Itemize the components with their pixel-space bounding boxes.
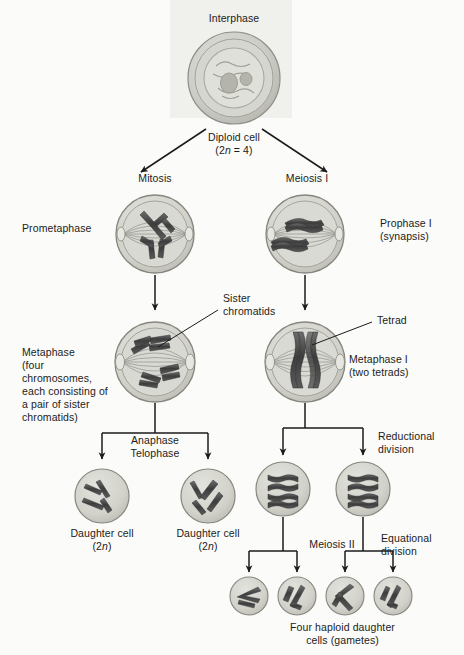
- metaphase-i-cell-graphic: [265, 322, 345, 402]
- mitosis-label: Mitosis: [120, 172, 190, 185]
- reductional-division-line1: Reductional: [378, 430, 464, 443]
- interphase-label: Interphase: [184, 12, 284, 25]
- meiosis-ii-label: Meiosis II: [299, 538, 365, 551]
- daughter-cell-2-graphic: [181, 469, 235, 523]
- reductional-division-line2: division: [378, 443, 464, 456]
- daughter-cell-2-ploidy: (2n): [168, 540, 248, 553]
- metaphase-i-label-line1: Metaphase I: [349, 353, 439, 366]
- prophase-i-label-line1: Prophase I: [380, 217, 460, 230]
- daughter-cell-2-label: Daughter cell: [168, 527, 248, 540]
- interphase-cell-graphic: [188, 32, 280, 124]
- tetrad-label: Tetrad: [377, 314, 437, 327]
- gamete-cell-2-graphic: [278, 577, 316, 615]
- sister-chromatids-label-line1: Sister: [223, 292, 293, 305]
- four-haploid-caption-line2: cells (gametes): [250, 634, 435, 647]
- meiosis-ii-split-left: [249, 517, 297, 572]
- metaphase-i-label-line2: (two tetrads): [349, 366, 449, 379]
- prometaphase-label: Prometaphase: [22, 222, 112, 235]
- meiosis-i-label: Meiosis I: [272, 172, 342, 185]
- daughter-cell-1-ploidy: (2n): [62, 540, 142, 553]
- metaphase-block-line5: a pair of sister: [22, 398, 132, 411]
- equational-division-line2: division: [381, 545, 463, 558]
- meiosis-ii-cell-a-graphic: [256, 462, 310, 516]
- telophase-label: Telophase: [117, 447, 193, 460]
- gamete-cell-1-graphic: [230, 577, 268, 615]
- metaphase-block-line4: each consisting of: [22, 385, 142, 398]
- daughter-cell-1-label: Daughter cell: [62, 527, 142, 540]
- daughter-cell-1-graphic: [75, 469, 129, 523]
- gamete-cell-3-graphic: [326, 577, 364, 615]
- diploid-cell-label: Diploid cell: [184, 131, 284, 144]
- prometaphase-cell-graphic: [116, 195, 194, 273]
- reductional-division-split: [283, 403, 363, 455]
- sister-chromatids-label-line2: chromatids: [223, 305, 303, 318]
- meiosis-ii-cell-b-graphic: [336, 462, 390, 516]
- prophase-i-label-line2: (synapsis): [380, 230, 460, 243]
- metaphase-block-line1: Metaphase: [22, 346, 126, 359]
- metaphase-block-line2: (four: [22, 359, 126, 372]
- diploid-cell-count: (2n = 4): [184, 144, 284, 157]
- equational-division-line1: Equational: [381, 532, 463, 545]
- metaphase-block-line6: chromatids): [22, 411, 132, 424]
- anaphase-label: Anaphase: [117, 434, 193, 447]
- prophase-i-cell-graphic: [266, 195, 344, 273]
- metaphase-block-line3: chromosomes,: [22, 372, 132, 385]
- diagram-canvas: Interphase Diploid cell (2n = 4) Mitosis…: [0, 0, 464, 655]
- four-haploid-caption-line1: Four haploid daughter: [250, 621, 435, 634]
- gamete-cell-4-graphic: [374, 577, 412, 615]
